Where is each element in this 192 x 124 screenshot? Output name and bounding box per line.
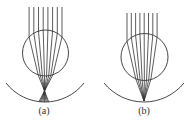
optics-figure: (a) (b): [0, 0, 192, 124]
panel-b-label: (b): [129, 105, 159, 117]
panel-b: [104, 13, 184, 102]
panel-a-label: (a): [29, 105, 59, 117]
panel-a: [6, 7, 84, 102]
light-ray: [40, 7, 57, 102]
